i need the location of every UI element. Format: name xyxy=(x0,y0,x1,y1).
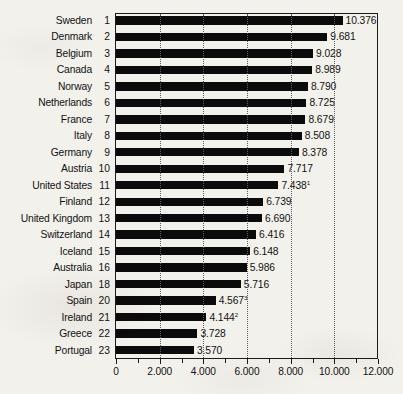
bar-value-label: 8.508 xyxy=(305,128,330,143)
rank-label: 11 xyxy=(92,178,110,193)
x-tick-label: 4.000 xyxy=(191,366,216,377)
category-label: Denmark xyxy=(0,29,92,44)
bar xyxy=(116,99,306,107)
table-row: Australia165.986 xyxy=(0,260,403,275)
rank-label: 7 xyxy=(92,112,110,127)
footnote-marker: 2 xyxy=(235,310,238,317)
bar-value-label: 8.679 xyxy=(308,112,333,127)
bar xyxy=(116,198,263,206)
rank-label: 6 xyxy=(92,95,110,110)
bar-value-label: 6.148 xyxy=(253,244,278,259)
gridline xyxy=(160,14,161,360)
category-label: Belgium xyxy=(0,46,92,61)
bar-value-label: 6.690 xyxy=(265,211,290,226)
table-row: Switzerland146.416 xyxy=(0,227,403,242)
bar-value-label: 8.378 xyxy=(302,145,327,160)
bar-value-label: 6.739 xyxy=(266,194,291,209)
rank-label: 5 xyxy=(92,79,110,94)
bar-value-label: 7.4381 xyxy=(281,178,310,193)
table-row: United Kingdom136.690 xyxy=(0,211,403,226)
rank-label: 21 xyxy=(92,310,110,325)
category-label: Norway xyxy=(0,79,92,94)
bar xyxy=(116,346,194,354)
table-row: Canada48.989 xyxy=(0,62,403,77)
rank-label: 2 xyxy=(92,29,110,44)
rank-label: 23 xyxy=(92,343,110,358)
bar xyxy=(116,115,305,123)
gridline xyxy=(334,14,335,360)
bar-value-label: 5.986 xyxy=(250,260,275,275)
x-axis: 02.0004.0006.0008.00010.00012.000 xyxy=(0,359,403,394)
bar-value-label: 8.725 xyxy=(309,95,334,110)
category-label: Netherlands xyxy=(0,95,92,110)
x-tick-label: 8.000 xyxy=(278,366,303,377)
table-row: Netherlands68.725 xyxy=(0,95,403,110)
bar xyxy=(116,33,327,41)
x-tick-minor xyxy=(225,359,226,363)
category-label: United States xyxy=(0,178,92,193)
x-tick-minor xyxy=(356,359,357,363)
rank-label: 12 xyxy=(92,194,110,209)
horizontal-bar-chart: Sweden110.376Denmark29.681Belgium39.028C… xyxy=(0,0,403,394)
bar xyxy=(116,165,284,173)
table-row: Greece223.728 xyxy=(0,326,403,341)
bar xyxy=(116,148,299,156)
table-row: Finland126.739 xyxy=(0,194,403,209)
x-tick-minor xyxy=(182,359,183,363)
table-row: Spain204.5673 xyxy=(0,293,403,308)
table-row: Austria107.717 xyxy=(0,161,403,176)
category-label: Italy xyxy=(0,128,92,143)
category-label: France xyxy=(0,112,92,127)
x-tick xyxy=(160,359,161,364)
category-label: Iceland xyxy=(0,244,92,259)
bar xyxy=(116,230,256,238)
bar xyxy=(116,16,343,24)
bar-value-label: 4.5673 xyxy=(219,293,248,308)
rank-label: 1 xyxy=(92,13,110,28)
table-row: Japan185.716 xyxy=(0,277,403,292)
x-tick-label: 2.000 xyxy=(147,366,172,377)
x-tick xyxy=(116,359,117,364)
rank-label: 16 xyxy=(92,260,110,275)
x-tick xyxy=(378,359,379,364)
bar xyxy=(116,181,278,189)
x-tick-label: 10.000 xyxy=(319,366,350,377)
table-row: Portugal233.570 xyxy=(0,343,403,358)
rank-label: 8 xyxy=(92,128,110,143)
bar-value-label: 9.028 xyxy=(316,46,341,61)
rank-label: 15 xyxy=(92,244,110,259)
table-row: Italy88.508 xyxy=(0,128,403,143)
rank-label: 13 xyxy=(92,211,110,226)
rank-label: 4 xyxy=(92,62,110,77)
category-label: Australia xyxy=(0,260,92,275)
gridline xyxy=(247,14,248,360)
bar xyxy=(116,313,206,321)
rank-label: 18 xyxy=(92,277,110,292)
table-row: United States117.4381 xyxy=(0,178,403,193)
category-label: Sweden xyxy=(0,13,92,28)
gridline xyxy=(291,14,292,360)
bar xyxy=(116,329,197,337)
category-label: Greece xyxy=(0,326,92,341)
table-row: Belgium39.028 xyxy=(0,46,403,61)
rank-label: 9 xyxy=(92,145,110,160)
bar xyxy=(116,263,247,271)
category-label: Spain xyxy=(0,293,92,308)
bar xyxy=(116,132,302,140)
bar xyxy=(116,214,262,222)
table-row: Denmark29.681 xyxy=(0,29,403,44)
table-row: Sweden110.376 xyxy=(0,13,403,28)
x-tick-minor xyxy=(138,359,139,363)
bar-value-label: 3.570 xyxy=(197,343,222,358)
bar-value-label: 4.1442 xyxy=(209,310,238,325)
x-tick xyxy=(203,359,204,364)
category-label: Germany xyxy=(0,145,92,160)
bar xyxy=(116,296,216,304)
x-tick-label: 6.000 xyxy=(235,366,260,377)
bar xyxy=(116,49,313,57)
bar-value-label: 6.416 xyxy=(259,227,284,242)
x-tick xyxy=(291,359,292,364)
bar xyxy=(116,280,241,288)
x-tick-label: 12.000 xyxy=(363,366,394,377)
x-tick xyxy=(334,359,335,364)
